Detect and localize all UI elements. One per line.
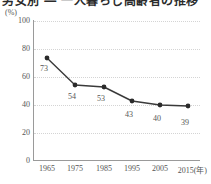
line-chart-figure: 男女別 ― 一人暮らし高齢者の推移 (%) 100 80 60 40 20 0 … bbox=[0, 0, 211, 184]
data-point-marker bbox=[158, 103, 163, 108]
x-tick-2005: 2005 bbox=[152, 164, 168, 173]
series-plot bbox=[0, 0, 211, 184]
x-tick-1995: 1995 bbox=[124, 164, 140, 173]
x-tick-1975: 1975 bbox=[67, 164, 83, 173]
x-tick-2015: 2015(年) bbox=[178, 164, 207, 175]
data-point-marker bbox=[73, 83, 78, 88]
x-axis-unit-suffix: (年) bbox=[194, 166, 207, 175]
data-label-1995: 43 bbox=[125, 110, 133, 119]
data-label-1975: 54 bbox=[68, 92, 76, 101]
data-point-marker bbox=[130, 99, 135, 104]
data-point-marker bbox=[45, 56, 50, 61]
x-tick-1965: 1965 bbox=[39, 164, 55, 173]
data-label-1985: 53 bbox=[97, 94, 105, 103]
data-point-marker bbox=[186, 104, 191, 109]
x-tick-2015-year: 2015 bbox=[178, 166, 194, 175]
data-label-2005: 40 bbox=[153, 114, 161, 123]
data-point-marker bbox=[102, 85, 107, 90]
data-label-1965: 73 bbox=[40, 64, 48, 73]
data-label-2015: 39 bbox=[181, 118, 189, 127]
x-tick-1985: 1985 bbox=[96, 164, 112, 173]
